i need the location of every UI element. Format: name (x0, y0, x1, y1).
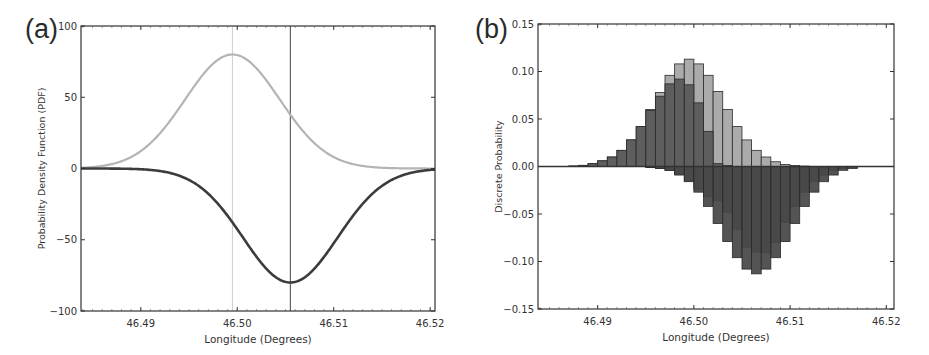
chart-b-ytick-label: 0.05 (512, 114, 534, 125)
bar (809, 167, 819, 193)
bar (646, 110, 656, 166)
bar (675, 167, 685, 176)
bar (761, 157, 771, 167)
series-line-0 (81, 55, 435, 169)
chart-a-plot (81, 26, 435, 311)
chart-a-ytick-label: −50 (56, 234, 77, 245)
chart-b-ytick-label: −0.05 (503, 209, 534, 220)
chart-a-xtick-label: 46.51 (319, 318, 348, 329)
chart-a-axes: 46.4946.5046.5146.52100500−50−100Longitu… (36, 21, 444, 346)
bar (694, 103, 704, 167)
chart-b-xtick-label: 46.51 (776, 316, 805, 327)
bar (829, 167, 839, 176)
chart-a-xlabel: Longitude (Degrees) (204, 333, 311, 345)
chart-a-xtick-label: 46.49 (126, 318, 155, 329)
chart-b-xtick-label: 46.50 (680, 316, 709, 327)
chart-b-ytick-label: −0.10 (503, 256, 534, 267)
bar (684, 85, 694, 167)
bar (819, 167, 829, 182)
chart-b-ylabel: Discrete Probability (493, 120, 504, 213)
chart-a-ytick-label: −100 (50, 306, 77, 317)
bar (742, 140, 752, 167)
chart-b-plot (538, 59, 894, 274)
chart-b-ytick-label: 0.00 (512, 161, 534, 172)
series-line-1 (81, 169, 435, 283)
chart-a-pdf: 46.4946.5046.5146.52100500−50−100Longitu… (0, 0, 929, 355)
bar (607, 157, 617, 167)
chart-a-xtick-label: 46.50 (223, 318, 252, 329)
bar (732, 127, 742, 167)
chart-a-ytick-label: 50 (64, 92, 77, 103)
bar (675, 79, 685, 166)
chart-b-xtick-label: 46.52 (872, 316, 901, 327)
bar (684, 167, 694, 182)
bar (771, 167, 781, 258)
bar (598, 161, 608, 167)
bar (723, 110, 733, 167)
chart-b-xtick-label: 46.49 (583, 316, 612, 327)
bar (761, 167, 771, 270)
bar (617, 150, 627, 166)
chart-b-ytick-label: −0.15 (503, 304, 534, 315)
bar (752, 150, 762, 166)
chart-a-ytick-label: 0 (71, 163, 77, 174)
bar (655, 96, 665, 166)
bar (703, 167, 713, 207)
bar (627, 140, 637, 167)
bar (665, 84, 675, 167)
bar (800, 167, 810, 207)
bar (713, 91, 723, 166)
bar (790, 167, 800, 224)
chart-a-ytick-label: 100 (58, 21, 77, 32)
chart-b-xlabel: Longitude (Degrees) (662, 331, 769, 343)
chart-a-xtick-label: 46.52 (416, 318, 445, 329)
bar (771, 162, 781, 167)
bar (703, 131, 713, 166)
chart-a-ylabel: Probability Density Function (PDF) (36, 88, 47, 250)
chart-b-ytick-label: 0.15 (512, 19, 534, 30)
bar (752, 167, 762, 274)
bar (780, 167, 790, 242)
bar (723, 167, 733, 242)
bar (713, 167, 723, 224)
bar (694, 167, 704, 193)
bar (636, 127, 646, 167)
bar (732, 167, 742, 258)
bar (742, 167, 752, 270)
chart-b-ytick-label: 0.10 (512, 66, 534, 77)
